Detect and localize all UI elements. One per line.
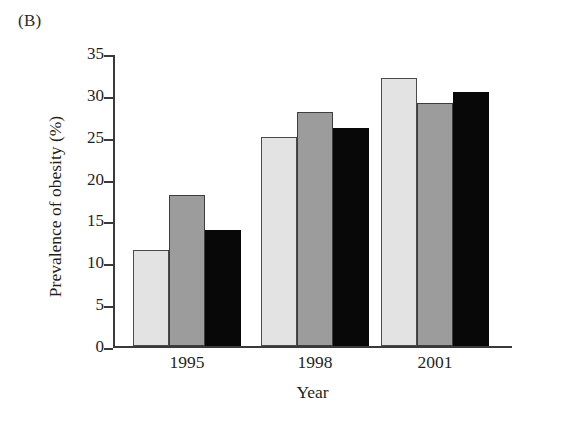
bar (333, 128, 369, 346)
y-tick-mark (104, 55, 113, 57)
y-axis-line (113, 55, 115, 348)
y-tick-mark (104, 264, 113, 266)
x-axis-line (113, 346, 512, 348)
y-tick-label: 30 (87, 86, 104, 106)
bar (297, 112, 333, 346)
bar (417, 103, 453, 346)
y-tick-label: 15 (87, 211, 104, 231)
y-tick-mark (104, 181, 113, 183)
y-tick-label: 25 (87, 128, 104, 148)
bar (133, 250, 169, 346)
bar (453, 92, 489, 346)
y-tick-mark (104, 139, 113, 141)
panel-letter: (B) (18, 11, 42, 31)
y-tick-label: 0 (96, 337, 105, 357)
x-tick-label: 1998 (275, 352, 355, 373)
bar (169, 195, 205, 346)
y-tick-mark (104, 306, 113, 308)
plot-area: 05101520253035 (113, 55, 512, 348)
y-tick-label: 20 (87, 170, 104, 190)
y-tick-mark (104, 97, 113, 99)
y-tick-mark (104, 222, 113, 224)
x-tick-label: 2001 (395, 352, 475, 373)
y-tick-label: 10 (87, 253, 104, 273)
y-tick-label: 35 (87, 44, 104, 64)
y-axis-title: Prevalence of obesity (%) (45, 57, 66, 357)
x-tick-label: 1995 (147, 352, 227, 373)
bar (261, 137, 297, 346)
x-axis-title: Year (113, 382, 512, 403)
bar (205, 230, 241, 346)
bar (381, 78, 417, 346)
y-tick-label: 5 (96, 295, 105, 315)
y-tick-mark (104, 348, 113, 350)
